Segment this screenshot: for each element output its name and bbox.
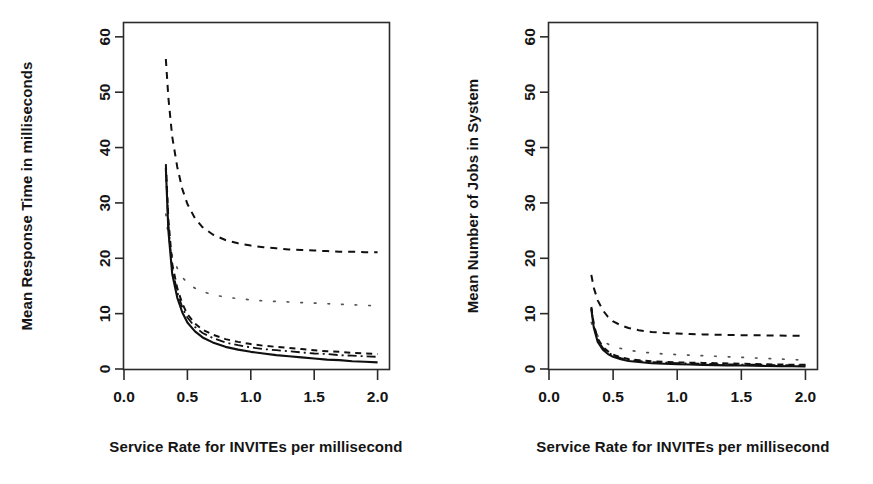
y-tick-label: 30 bbox=[521, 194, 538, 211]
y-axis-title: Mean Response Time in milliseconds bbox=[18, 61, 35, 330]
x-tick-label: 1.5 bbox=[303, 388, 325, 405]
plot-frame bbox=[124, 23, 390, 370]
y-tick-label: 60 bbox=[521, 28, 538, 45]
plot-frame bbox=[549, 23, 818, 370]
x-tick-label: 1.0 bbox=[240, 388, 262, 405]
x-tick-label: 0.5 bbox=[602, 388, 624, 405]
y-tick-label: 10 bbox=[96, 305, 113, 322]
y-tick-label: 30 bbox=[96, 194, 113, 211]
y-tick-label: 0 bbox=[96, 365, 113, 374]
x-tick-label: 0.5 bbox=[177, 388, 199, 405]
y-tick-label: 20 bbox=[96, 250, 113, 267]
panel-jobs-in-system: 0102030405060 0.00.51.01.52.0 Mean Numbe… bbox=[436, 0, 872, 484]
x-axis-title: Service Rate for INVITEs per millisecond bbox=[109, 438, 402, 455]
x-axis-title: Service Rate for INVITEs per millisecond bbox=[536, 438, 829, 455]
y-tick-label: 50 bbox=[521, 84, 538, 101]
x-tick-label: 0.0 bbox=[538, 388, 560, 405]
y-tick-label: 0 bbox=[521, 365, 538, 374]
x-tick-label: 1.0 bbox=[666, 388, 688, 405]
x-tick-label: 0.0 bbox=[113, 388, 135, 405]
y-tick-label: 40 bbox=[96, 139, 113, 156]
x-tick-label: 2.0 bbox=[367, 388, 389, 405]
y-tick-label: 50 bbox=[96, 84, 113, 101]
panel-response-time: 0102030405060 0.00.51.01.52.0 Mean Respo… bbox=[0, 0, 436, 484]
y-axis-title: Mean Number of Jobs in System bbox=[464, 79, 481, 314]
y-tick-label: 40 bbox=[521, 139, 538, 156]
chart-response-time: 0102030405060 0.00.51.01.52.0 Mean Respo… bbox=[0, 0, 436, 484]
x-tick-label: 2.0 bbox=[795, 388, 817, 405]
y-tick-label: 10 bbox=[521, 305, 538, 322]
y-tick-label: 60 bbox=[96, 28, 113, 45]
x-tick-label: 1.5 bbox=[731, 388, 753, 405]
figure-container: 0102030405060 0.00.51.01.52.0 Mean Respo… bbox=[0, 0, 873, 484]
y-tick-label: 20 bbox=[521, 250, 538, 267]
chart-jobs-in-system: 0102030405060 0.00.51.01.52.0 Mean Numbe… bbox=[436, 0, 872, 484]
